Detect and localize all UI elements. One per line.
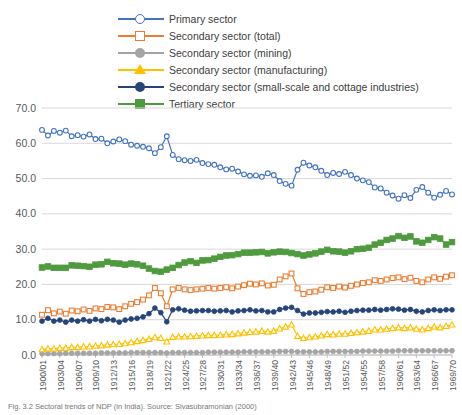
x-axis-tick: 1957/58 xyxy=(377,360,387,391)
legend-item-secondary-mining[interactable]: Secondary sector (mining) xyxy=(118,44,448,61)
x-axis-tick: 1921/22 xyxy=(163,360,173,391)
x-axis-tick: 1918/19 xyxy=(145,360,155,391)
legend-label-secondary-mining: Secondary sector (mining) xyxy=(169,47,292,59)
x-axis-tick: 1948/49 xyxy=(323,360,333,391)
x-axis-tick: 1909/10 xyxy=(91,360,101,391)
x-axis-tick: 1966/67 xyxy=(430,360,440,391)
chart-root: Primary sector Secondary sector (total) … xyxy=(0,0,462,415)
series-3 xyxy=(39,322,455,352)
legend-item-secondary-small-scale[interactable]: Secondary sector (small-scale and cottag… xyxy=(118,78,448,95)
x-axis-tick: 1960/61 xyxy=(395,360,405,391)
y-axis-tick: 20.0 xyxy=(16,278,37,290)
legend-marker-secondary-small-scale xyxy=(118,80,164,94)
legend-label-secondary-small-scale: Secondary sector (small-scale and cottag… xyxy=(169,81,419,93)
y-axis-tick: 60.0 xyxy=(16,137,37,149)
x-axis-tick: 1954/55 xyxy=(359,360,369,391)
x-axis-tick: 1963/64 xyxy=(412,360,422,391)
x-axis-tick: 1945/46 xyxy=(305,360,315,391)
x-axis-tick: 1924/25 xyxy=(181,360,191,391)
legend-marker-secondary-total xyxy=(118,29,164,43)
y-axis-tick: 0.0 xyxy=(21,349,36,361)
legend-item-secondary-manufacturing[interactable]: Secondary sector (manufacturing) xyxy=(118,61,448,78)
x-axis-tick: 1936/37 xyxy=(252,360,262,391)
y-axis-tick: 10.0 xyxy=(16,313,37,325)
legend-item-secondary-total[interactable]: Secondary sector (total) xyxy=(118,27,448,44)
y-axis-tick: 70.0 xyxy=(16,102,37,114)
legend-label-secondary-total: Secondary sector (total) xyxy=(169,30,280,42)
chart-plot-area: 0.010.020.030.040.050.060.070.01900/0119… xyxy=(0,100,462,415)
x-axis-tick: 1915/16 xyxy=(127,360,137,391)
x-axis-tick: 1951/52 xyxy=(341,360,351,391)
x-axis-tick: 1969/70 xyxy=(448,360,458,391)
x-axis-tick: 1942/43 xyxy=(288,360,298,391)
y-axis-tick: 30.0 xyxy=(16,243,37,255)
legend-marker-primary-sector xyxy=(118,12,164,26)
x-axis-tick: 1906/07 xyxy=(74,360,84,391)
x-axis-tick: 1903/04 xyxy=(56,360,66,391)
legend-marker-secondary-manufacturing xyxy=(118,63,164,77)
y-axis-tick: 40.0 xyxy=(16,207,37,219)
series-0 xyxy=(40,127,455,201)
chart-svg: 0.010.020.030.040.050.060.070.01900/0119… xyxy=(0,100,462,415)
x-axis-tick: 1927/28 xyxy=(198,360,208,391)
legend-label-secondary-manufacturing: Secondary sector (manufacturing) xyxy=(169,64,327,76)
legend-label-primary-sector: Primary sector xyxy=(169,13,237,25)
x-axis-tick: 1939/40 xyxy=(270,360,280,391)
series-5 xyxy=(39,233,455,274)
legend-item-primary-sector[interactable]: Primary sector xyxy=(118,10,448,27)
x-axis-tick: 1933/34 xyxy=(234,360,244,391)
legend-marker-secondary-mining xyxy=(118,46,164,60)
x-axis-tick: 1900/01 xyxy=(38,360,48,391)
y-axis-tick: 50.0 xyxy=(16,172,37,184)
figure-caption: Fig. 3.2 Sectoral trends of NDP (in Indi… xyxy=(8,402,257,411)
x-axis-tick: 1930/31 xyxy=(216,360,226,391)
x-axis-tick: 1912/13 xyxy=(109,360,119,391)
chart-legend: Primary sector Secondary sector (total) … xyxy=(118,10,448,112)
